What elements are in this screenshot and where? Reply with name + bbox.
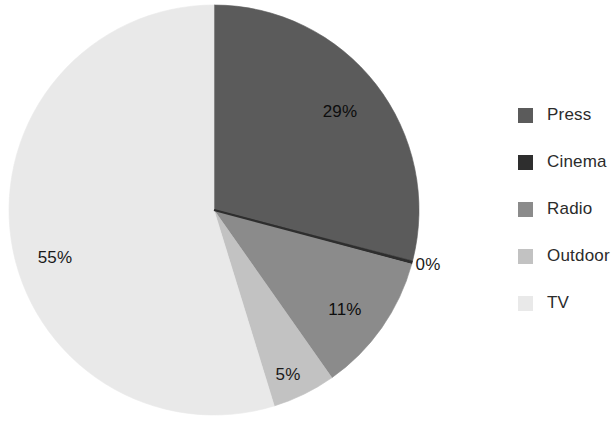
pie-label-radio: 11% bbox=[328, 300, 361, 320]
legend-item-radio[interactable]: Radio bbox=[517, 194, 616, 241]
legend-item-tv[interactable]: TV bbox=[517, 288, 616, 335]
legend-item-label: Radio bbox=[547, 196, 592, 222]
chart-legend: PressCinemaRadioOutdoorTV bbox=[517, 100, 616, 335]
pie-label-outdoor: 5% bbox=[276, 365, 301, 385]
legend-swatch-icon bbox=[518, 108, 533, 123]
pie-label-press: 29% bbox=[323, 102, 358, 122]
legend-item-label: TV bbox=[547, 290, 569, 316]
legend-swatch-icon bbox=[518, 202, 533, 217]
legend-item-label: Press bbox=[547, 102, 591, 128]
legend-item-outdoor[interactable]: Outdoor bbox=[517, 241, 616, 288]
legend-swatch-icon bbox=[518, 155, 533, 170]
legend-item-press[interactable]: Press bbox=[517, 100, 616, 147]
legend-item-cinema[interactable]: Cinema bbox=[517, 147, 616, 194]
pie-label-tv: 55% bbox=[38, 248, 73, 268]
pie-chart: 29%0%11%5%55% PressCinemaRadioOutdoorTV bbox=[0, 0, 616, 423]
pie-label-cinema: 0% bbox=[416, 255, 441, 275]
legend-item-label: Outdoor bbox=[547, 243, 610, 269]
legend-swatch-icon bbox=[518, 249, 533, 264]
legend-item-label: Cinema bbox=[547, 149, 607, 175]
legend-swatch-icon bbox=[518, 296, 533, 311]
